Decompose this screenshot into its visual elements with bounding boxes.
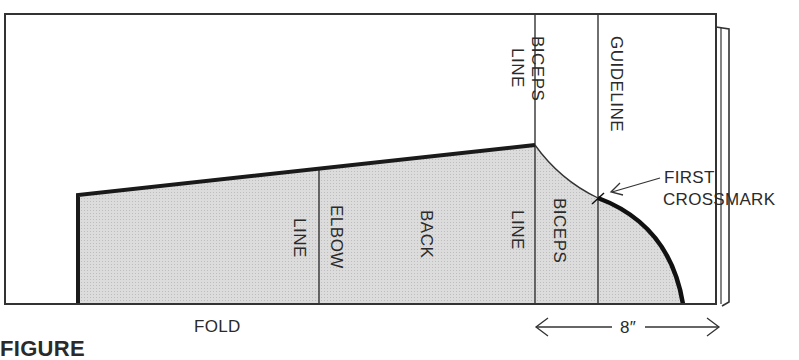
label-line-bottom: LINE <box>507 210 527 250</box>
label-crossmark: CROSSMARK <box>663 190 775 210</box>
label-biceps-bottom: BICEPS <box>549 198 569 263</box>
crossmark-pointer <box>612 178 660 192</box>
label-guideline: GUIDELINE <box>606 36 626 132</box>
label-elbow-line: LINE <box>289 218 309 258</box>
label-back: BACK <box>416 210 436 258</box>
label-measurement: 8″ <box>620 318 636 338</box>
label-biceps-top: BICEPS <box>527 36 547 101</box>
label-first: FIRST <box>664 168 715 188</box>
label-line-top: LINE <box>507 48 527 88</box>
sleeve-shaded-area <box>78 145 683 304</box>
caption-cut: FIGURE <box>0 336 85 360</box>
label-elbow: ELBOW <box>326 205 346 269</box>
paper-fold-edge <box>716 27 729 306</box>
label-fold: FOLD <box>194 317 241 337</box>
